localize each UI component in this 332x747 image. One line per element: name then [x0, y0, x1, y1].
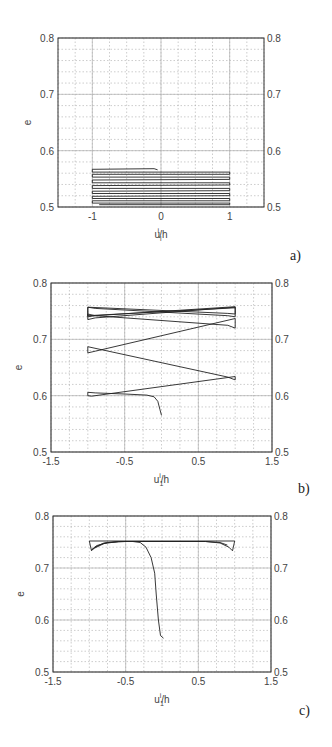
y-tick-label-right: 0.7 — [267, 89, 281, 100]
x-tick-label: 1 — [227, 211, 233, 222]
y-tick-label-left: 0.6 — [33, 391, 47, 402]
y-tick-label-right: 0.7 — [275, 334, 289, 345]
y-tick-label-right: 0.5 — [274, 667, 288, 678]
y-tick-label-right: 0.8 — [275, 278, 289, 289]
x-tick-label: 0.5 — [191, 456, 205, 467]
y-tick-label-left: 0.6 — [40, 146, 54, 157]
y-tick-label-left: 0.8 — [40, 33, 54, 44]
y-tick-label-right: 0.8 — [274, 511, 288, 522]
y-axis-label: e — [15, 591, 26, 597]
y-axis-label: e — [22, 119, 33, 125]
y-tick-label-left: 0.7 — [33, 334, 47, 345]
chart-panel-a: -1010.50.50.60.60.70.70.80.8uii/he — [22, 33, 281, 242]
panel-label-a: a) — [290, 248, 301, 264]
y-tick-label-right: 0.6 — [275, 391, 289, 402]
y-tick-label-right: 0.7 — [274, 563, 288, 574]
y-tick-label-right: 0.5 — [275, 447, 289, 458]
y-tick-label-left: 0.5 — [33, 447, 47, 458]
y-tick-label-left: 0.5 — [40, 202, 54, 213]
panel-label-b: b) — [298, 481, 310, 497]
y-tick-label-right: 0.5 — [267, 202, 281, 213]
x-tick-label: 0 — [158, 211, 164, 222]
figure: -1010.50.50.60.60.70.70.80.8uii/he -1.5-… — [0, 0, 332, 747]
x-tick-label: -1 — [88, 211, 97, 222]
chart-panel-c: -1.5-0.50.51.50.50.50.60.60.70.70.80.8u1… — [15, 511, 288, 707]
x-tick-label: -0.5 — [117, 676, 135, 687]
grid — [58, 38, 264, 207]
y-tick-label-left: 0.7 — [40, 89, 54, 100]
x-axis-label: u1i/h — [154, 472, 169, 487]
x-tick-label: -0.5 — [116, 456, 134, 467]
y-tick-label-right: 0.6 — [267, 146, 281, 157]
grid — [53, 516, 271, 672]
y-tick-label-left: 0.8 — [35, 511, 49, 522]
x-axis-label: uii/h — [154, 227, 167, 242]
y-tick-label-left: 0.8 — [33, 278, 47, 289]
y-tick-label-right: 0.8 — [267, 33, 281, 44]
chart-panel-b: -1.5-0.50.51.50.50.50.60.60.70.70.80.8u1… — [13, 278, 289, 487]
y-tick-label-right: 0.6 — [274, 615, 288, 626]
y-tick-label-left: 0.7 — [35, 563, 49, 574]
y-axis-label: e — [13, 364, 24, 370]
panel-label-c: c) — [299, 703, 310, 719]
y-tick-label-left: 0.5 — [35, 667, 49, 678]
x-axis-label: u1i/h — [154, 692, 169, 707]
y-tick-label-left: 0.6 — [35, 615, 49, 626]
grid — [51, 283, 272, 452]
x-tick-label: 0.5 — [191, 676, 205, 687]
